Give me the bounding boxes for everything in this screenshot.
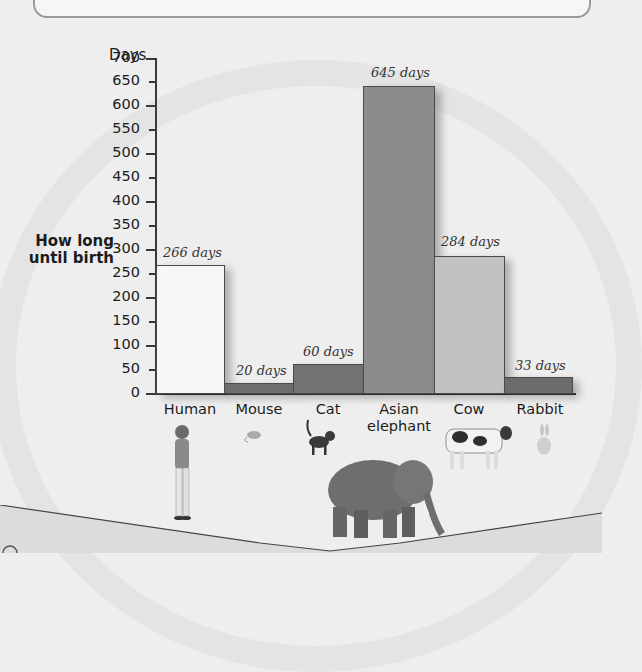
side-label-line2: until birth (14, 250, 114, 267)
tick-label: 250 (100, 264, 140, 280)
cow-illustration (440, 425, 518, 473)
tick-label: 650 (100, 72, 140, 88)
tick-mark (146, 105, 156, 107)
tick-label: 50 (100, 360, 140, 376)
tick-mark (149, 321, 156, 323)
tick-label: 500 (100, 144, 140, 160)
value-label-cat: 60 days (303, 344, 354, 359)
category-label-mouse: Mouse (221, 401, 297, 418)
side-label: How long until birth (14, 233, 114, 267)
value-label-cow: 284 days (441, 234, 500, 249)
tick-mark (149, 81, 156, 83)
tick-mark (146, 345, 156, 347)
category-label-rabbit: Rabbit (500, 401, 580, 418)
category-label-line2: elephant (358, 418, 440, 435)
tick-mark (149, 369, 156, 371)
category-label-cow: Cow (431, 401, 507, 418)
value-label-rabbit: 33 days (515, 358, 566, 373)
tick-label: 600 (100, 96, 140, 112)
tick-label: 700 (100, 49, 140, 65)
tick-label: 100 (100, 336, 140, 352)
category-label-human: Human (150, 401, 230, 418)
tick-mark (149, 177, 156, 179)
tick-mark (146, 297, 156, 299)
tick-mark (149, 225, 156, 227)
asian-elephant-illustration (318, 452, 448, 542)
rabbit-illustration (532, 424, 556, 458)
category-label-cat: Cat (290, 401, 366, 418)
category-label-asian-elephant: Asian elephant (358, 401, 440, 435)
tick-label: 300 (100, 240, 140, 256)
tick-label: 350 (100, 216, 140, 232)
bar-cat (293, 364, 364, 394)
tick-mark (146, 393, 156, 395)
value-label-mouse: 20 days (236, 363, 287, 378)
tick-label: 400 (100, 192, 140, 208)
tick-mark (149, 129, 156, 131)
tick-label: 450 (100, 168, 140, 184)
category-label-line1: Asian (358, 401, 440, 418)
bottom-band (0, 505, 602, 553)
bar-human (156, 265, 225, 394)
bar-cow (434, 256, 505, 394)
mouse-illustration (240, 428, 264, 444)
tick-mark (146, 153, 156, 155)
tick-label: 200 (100, 288, 140, 304)
bar-mouse (224, 383, 294, 394)
tick-mark (146, 249, 156, 251)
top-caption-panel (33, 0, 591, 18)
tick-mark (146, 201, 156, 203)
bar-rabbit (504, 377, 573, 394)
value-label-human: 266 days (163, 245, 222, 260)
tick-label: 150 (100, 312, 140, 328)
tick-mark (149, 273, 156, 275)
value-label-asian-elephant: 645 days (371, 65, 430, 80)
tick-label: 0 (100, 384, 140, 400)
human-illustration (162, 422, 202, 524)
side-label-line1: How long (14, 233, 114, 250)
bar-asian-elephant (363, 86, 435, 394)
tick-mark (146, 58, 156, 60)
tick-label: 550 (100, 120, 140, 136)
